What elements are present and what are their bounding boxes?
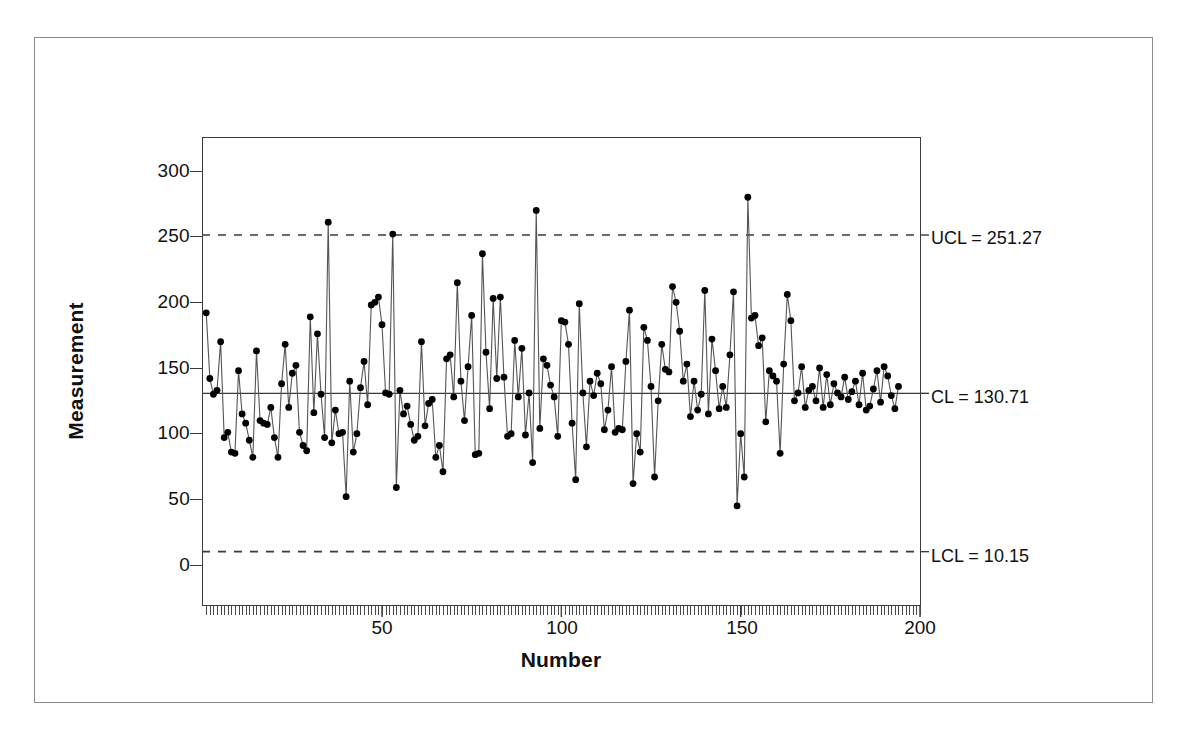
x-minor-tick: [920, 606, 921, 615]
x-minor-tick: [852, 606, 853, 615]
x-minor-tick: [687, 606, 688, 615]
x-minor-tick: [583, 606, 584, 615]
x-minor-tick: [343, 606, 344, 615]
x-minor-tick: [816, 606, 817, 615]
x-minor-tick: [576, 606, 577, 615]
x-minor-tick: [482, 606, 483, 615]
ucl-label: UCL = 251.27: [931, 228, 1042, 249]
x-minor-tick: [708, 606, 709, 615]
x-minor-tick: [360, 606, 361, 615]
x-minor-tick: [282, 606, 283, 615]
x-minor-tick: [443, 606, 444, 615]
x-minor-tick: [335, 606, 336, 615]
x-minor-tick: [475, 606, 476, 615]
x-minor-tick: [898, 606, 899, 615]
x-minor-tick: [310, 606, 311, 615]
x-minor-tick: [827, 606, 828, 615]
x-minor-tick: [855, 606, 856, 615]
x-minor-tick: [651, 606, 652, 615]
x-minor-tick: [551, 606, 552, 615]
x-minor-tick: [468, 606, 469, 615]
x-minor-tick: [368, 606, 369, 615]
x-minor-tick: [256, 606, 257, 615]
x-minor-tick: [221, 606, 222, 615]
x-minor-tick: [382, 606, 383, 615]
x-minor-tick: [644, 606, 645, 615]
x-minor-tick: [662, 606, 663, 615]
x-minor-tick: [536, 606, 537, 615]
x-minor-tick: [386, 606, 387, 615]
x-minor-tick: [794, 606, 795, 615]
x-minor-tick: [371, 606, 372, 615]
x-minor-tick: [547, 606, 548, 615]
x-minor-tick: [518, 606, 519, 615]
x-minor-tick: [777, 606, 778, 615]
x-minor-tick: [701, 606, 702, 615]
x-minor-tick: [759, 606, 760, 615]
x-minor-tick: [726, 606, 727, 615]
x-minor-tick: [317, 606, 318, 615]
x-minor-tick: [357, 606, 358, 615]
x-tick-label: 100: [546, 617, 578, 639]
x-minor-tick: [730, 606, 731, 615]
x-minor-tick: [490, 606, 491, 615]
x-minor-tick: [823, 606, 824, 615]
x-minor-tick: [396, 606, 397, 615]
x-minor-tick: [838, 606, 839, 615]
x-minor-tick: [812, 606, 813, 615]
x-minor-tick: [479, 606, 480, 615]
x-tick-label: 200: [904, 617, 936, 639]
x-minor-tick: [429, 606, 430, 615]
x-minor-tick: [594, 606, 595, 615]
x-minor-tick: [569, 606, 570, 615]
x-minor-tick: [690, 606, 691, 615]
x-minor-tick: [303, 606, 304, 615]
y-tick-mark: [190, 433, 202, 434]
x-minor-tick: [608, 606, 609, 615]
x-minor-tick: [292, 606, 293, 615]
x-minor-tick: [820, 606, 821, 615]
x-minor-tick: [791, 606, 792, 615]
x-minor-tick: [314, 606, 315, 615]
x-minor-tick: [619, 606, 620, 615]
x-minor-tick: [228, 606, 229, 615]
x-minor-tick: [210, 606, 211, 615]
x-minor-tick: [543, 606, 544, 615]
x-minor-tick: [504, 606, 505, 615]
x-minor-tick: [271, 606, 272, 615]
x-minor-tick: [217, 606, 218, 615]
x-minor-tick: [637, 606, 638, 615]
x-minor-tick: [411, 606, 412, 615]
x-minor-tick: [597, 606, 598, 615]
x-minor-tick: [647, 606, 648, 615]
lcl-label: LCL = 10.15: [931, 546, 1029, 567]
x-minor-tick: [780, 606, 781, 615]
x-minor-tick: [274, 606, 275, 615]
y-tick-mark: [190, 302, 202, 303]
y-tick-label: 250: [157, 225, 190, 247]
x-minor-tick: [457, 606, 458, 615]
x-minor-tick: [802, 606, 803, 615]
x-minor-tick: [683, 606, 684, 615]
x-minor-tick: [450, 606, 451, 615]
x-minor-tick: [421, 606, 422, 615]
x-minor-tick: [888, 606, 889, 615]
x-minor-tick: [737, 606, 738, 615]
x-minor-tick: [554, 606, 555, 615]
x-minor-tick: [787, 606, 788, 615]
x-minor-tick: [472, 606, 473, 615]
x-minor-tick: [845, 606, 846, 615]
x-minor-tick: [529, 606, 530, 615]
x-minor-tick: [486, 606, 487, 615]
x-minor-tick: [805, 606, 806, 615]
x-minor-tick: [590, 606, 591, 615]
y-tick-mark: [190, 236, 202, 237]
x-minor-tick: [461, 606, 462, 615]
x-minor-tick: [712, 606, 713, 615]
x-minor-tick: [866, 606, 867, 615]
x-minor-tick: [622, 606, 623, 615]
x-minor-tick: [873, 606, 874, 615]
x-minor-tick: [364, 606, 365, 615]
x-minor-tick: [375, 606, 376, 615]
x-minor-tick: [909, 606, 910, 615]
